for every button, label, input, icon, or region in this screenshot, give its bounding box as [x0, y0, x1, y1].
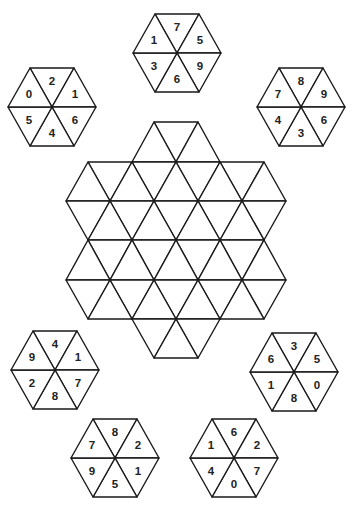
tile-number-upper-left: 1 — [151, 34, 158, 46]
tile-number-bottom: 8 — [291, 392, 298, 404]
tile-number-top: 7 — [174, 21, 180, 33]
tile-number-upper-right: 5 — [314, 353, 321, 365]
tile-number-bottom: 6 — [174, 73, 180, 85]
tile-number-upper-right: 1 — [75, 351, 82, 363]
tile-number-lower-left: 4 — [208, 465, 215, 477]
tile-number-upper-left: 7 — [275, 88, 281, 100]
tile-number-upper-right: 9 — [321, 88, 327, 100]
tile-number-lower-left: 3 — [151, 60, 157, 72]
tile-bottom-right[interactable]: 627041 — [190, 419, 278, 497]
tile-number-bottom: 4 — [49, 127, 56, 139]
puzzle-canvas: 7596312164508963474178293508168215976270… — [0, 0, 360, 519]
tile-number-bottom: 3 — [298, 127, 304, 139]
tile-number-lower-right: 9 — [197, 60, 203, 72]
tile-number-upper-left: 7 — [89, 439, 95, 451]
tile-number-bottom: 8 — [52, 390, 59, 402]
tile-number-upper-left: 0 — [26, 88, 32, 100]
tile-upper-left[interactable]: 216450 — [8, 68, 96, 146]
tile-number-bottom: 0 — [231, 478, 237, 490]
hexagram-board-grid — [66, 122, 286, 358]
tile-number-lower-right: 1 — [135, 465, 142, 477]
tile-number-lower-left: 1 — [268, 379, 275, 391]
tile-number-lower-left: 4 — [275, 114, 282, 126]
tile-number-upper-left: 6 — [268, 353, 274, 365]
tile-number-upper-right: 2 — [135, 439, 141, 451]
tile-number-lower-left: 5 — [26, 114, 33, 126]
tile-number-top: 3 — [291, 340, 297, 352]
tile-number-upper-right: 1 — [72, 88, 79, 100]
tile-number-upper-left: 1 — [208, 439, 215, 451]
tile-number-lower-right: 6 — [321, 114, 327, 126]
tile-number-upper-right: 5 — [197, 34, 204, 46]
tile-number-top: 2 — [49, 75, 55, 87]
tile-number-lower-right: 0 — [314, 379, 320, 391]
tile-top[interactable]: 759631 — [133, 14, 221, 92]
tile-number-lower-left: 9 — [89, 465, 95, 477]
tile-upper-right[interactable]: 896347 — [257, 68, 345, 146]
tile-number-top: 8 — [112, 426, 119, 438]
tile-number-bottom: 5 — [112, 478, 119, 490]
tile-bottom-left[interactable]: 821597 — [71, 419, 159, 497]
tile-number-top: 6 — [231, 426, 237, 438]
tile-number-upper-left: 9 — [29, 351, 35, 363]
tile-number-upper-right: 2 — [254, 439, 260, 451]
tile-number-lower-left: 2 — [29, 377, 35, 389]
tile-number-lower-right: 6 — [72, 114, 78, 126]
tile-middle-right[interactable]: 350816 — [250, 333, 338, 411]
tile-number-top: 4 — [52, 338, 59, 350]
tile-number-top: 8 — [298, 75, 305, 87]
tile-number-lower-right: 7 — [254, 465, 260, 477]
tile-number-lower-right: 7 — [75, 377, 81, 389]
tile-middle-left[interactable]: 417829 — [11, 331, 99, 409]
